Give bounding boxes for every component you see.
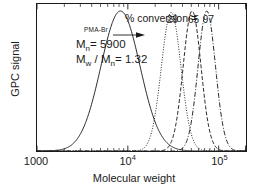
pdi-divider: / M xyxy=(91,53,110,65)
pdi-annotation: Mw / Mn= 1.32 xyxy=(76,53,147,65)
x-tick-10000: 104 xyxy=(119,155,135,167)
pdi-value: = 1.32 xyxy=(115,53,147,65)
x-axis-title: Molecular weight xyxy=(0,172,268,184)
x-tick-exponent: 5 xyxy=(223,153,227,162)
x-tick-100000: 105 xyxy=(211,155,227,167)
mn-symbol: M xyxy=(76,38,86,50)
curves-svg xyxy=(37,4,246,151)
peak-label-97: 97 xyxy=(203,14,214,25)
mn-value: = 5900 xyxy=(90,38,126,50)
x-axis-ticks xyxy=(37,4,246,151)
plot-area: % conversion = PMA-Br Mn= 5900 Mw / Mn= … xyxy=(36,3,247,152)
peak-label-65: 65 xyxy=(188,14,199,25)
peak-label-29: 29 xyxy=(167,14,178,25)
x-tick-1000: 1000 xyxy=(24,155,48,167)
gpc-chromatogram-figure: % conversion = PMA-Br Mn= 5900 Mw / Mn= … xyxy=(0,0,268,190)
y-axis-title: GPC signal xyxy=(9,14,21,124)
mn-annotation: Mn= 5900 xyxy=(76,38,126,50)
macroinitiator-label: PMA-Br xyxy=(84,26,108,33)
mw-symbol: M xyxy=(76,53,86,65)
x-tick-exponent: 4 xyxy=(132,153,136,162)
conversion-header-label: % conversion = xyxy=(125,12,197,24)
